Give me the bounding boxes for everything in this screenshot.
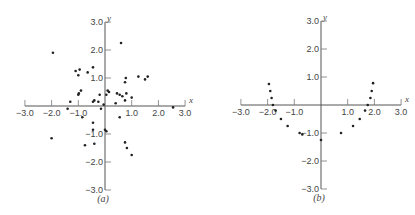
x-tick-label: −3.0 bbox=[16, 108, 34, 118]
scatter-plot-a: −3.0−2.0−1.01.02.03.03.02.01.0−1.0−2.0−3… bbox=[16, 13, 193, 205]
y-tick-label: 1.0 bbox=[90, 73, 103, 83]
data-point bbox=[137, 75, 140, 78]
data-point bbox=[372, 82, 375, 85]
data-point bbox=[108, 91, 111, 94]
data-point bbox=[370, 90, 373, 93]
data-point bbox=[301, 133, 304, 136]
data-point bbox=[269, 90, 272, 93]
data-point bbox=[366, 104, 369, 107]
y-tick-label: 3.0 bbox=[306, 16, 319, 26]
data-point bbox=[320, 139, 323, 142]
data-point bbox=[105, 130, 108, 133]
x-tick-label: 2.0 bbox=[368, 107, 381, 117]
y-tick-label: −2.0 bbox=[85, 157, 103, 167]
data-point bbox=[77, 74, 80, 77]
x-tick-label: −1.0 bbox=[69, 108, 87, 118]
y-axis-label: y bbox=[322, 12, 327, 22]
data-point bbox=[69, 101, 72, 104]
y-axis-label: y bbox=[106, 13, 111, 23]
data-point bbox=[125, 77, 128, 80]
data-point bbox=[97, 101, 100, 104]
y-tick-label: 2.0 bbox=[90, 45, 103, 55]
data-point bbox=[80, 89, 83, 92]
data-point bbox=[280, 118, 283, 121]
x-tick-label: 1.0 bbox=[125, 108, 138, 118]
data-point bbox=[118, 116, 121, 119]
data-point bbox=[92, 122, 95, 125]
data-point bbox=[364, 109, 367, 112]
data-point bbox=[50, 137, 53, 140]
data-point bbox=[124, 141, 127, 144]
plot-caption: (b) bbox=[313, 192, 325, 204]
x-tick-label: 1.0 bbox=[341, 107, 354, 117]
data-point bbox=[270, 97, 273, 100]
data-point bbox=[84, 144, 87, 147]
data-point bbox=[105, 94, 108, 97]
data-point bbox=[81, 116, 84, 119]
x-tick-label: −2.0 bbox=[43, 108, 61, 118]
data-point bbox=[298, 132, 301, 135]
data-point bbox=[100, 108, 103, 111]
data-point bbox=[369, 97, 372, 100]
data-point bbox=[146, 75, 149, 78]
data-point bbox=[118, 94, 121, 97]
plot-caption: (a) bbox=[97, 193, 109, 205]
data-point bbox=[358, 118, 361, 121]
data-point bbox=[114, 102, 117, 105]
data-point bbox=[93, 143, 96, 146]
x-tick-label: 3.0 bbox=[395, 107, 408, 117]
data-point bbox=[121, 95, 124, 98]
data-point bbox=[124, 81, 127, 84]
data-point bbox=[52, 52, 55, 55]
data-point bbox=[352, 125, 355, 128]
y-tick-label: 3.0 bbox=[90, 17, 103, 27]
y-tick-label: 2.0 bbox=[306, 44, 319, 54]
x-tick-label: 2.0 bbox=[152, 108, 165, 118]
data-point bbox=[120, 42, 123, 45]
scatter-plots: −3.0−2.0−1.01.02.03.03.02.01.0−1.0−2.0−3… bbox=[0, 0, 415, 215]
data-point bbox=[286, 125, 289, 128]
x-tick-label: −2.0 bbox=[259, 107, 277, 117]
data-point bbox=[125, 92, 128, 95]
x-tick-label: 3.0 bbox=[179, 108, 192, 118]
data-point bbox=[124, 99, 127, 102]
scatter-plot-b: −3.0−2.0−1.01.02.03.03.02.01.0−1.0−2.0−3… bbox=[232, 12, 409, 204]
data-point bbox=[92, 129, 95, 132]
data-point bbox=[66, 108, 69, 111]
data-point bbox=[116, 92, 119, 95]
data-point bbox=[98, 94, 101, 97]
data-point bbox=[144, 78, 147, 81]
data-point bbox=[274, 109, 277, 112]
y-tick-label: −1.0 bbox=[85, 129, 103, 139]
y-tick-label: 1.0 bbox=[306, 72, 319, 82]
data-point bbox=[172, 106, 175, 109]
data-point bbox=[102, 103, 105, 106]
data-point bbox=[78, 92, 81, 95]
x-tick-label: −1.0 bbox=[285, 107, 303, 117]
data-point bbox=[78, 68, 81, 71]
data-point bbox=[93, 99, 96, 102]
data-point bbox=[86, 71, 89, 74]
data-point bbox=[268, 83, 271, 86]
data-point bbox=[340, 132, 343, 135]
data-point bbox=[126, 147, 129, 150]
data-point bbox=[74, 70, 77, 73]
data-point bbox=[92, 66, 95, 69]
x-axis-label: x bbox=[188, 95, 193, 105]
x-tick-label: −3.0 bbox=[232, 107, 250, 117]
y-tick-label: −1.0 bbox=[301, 128, 319, 138]
data-point bbox=[272, 104, 275, 107]
data-point bbox=[130, 154, 133, 157]
data-point bbox=[130, 96, 133, 99]
x-axis-label: x bbox=[404, 94, 409, 104]
y-tick-label: −2.0 bbox=[301, 156, 319, 166]
